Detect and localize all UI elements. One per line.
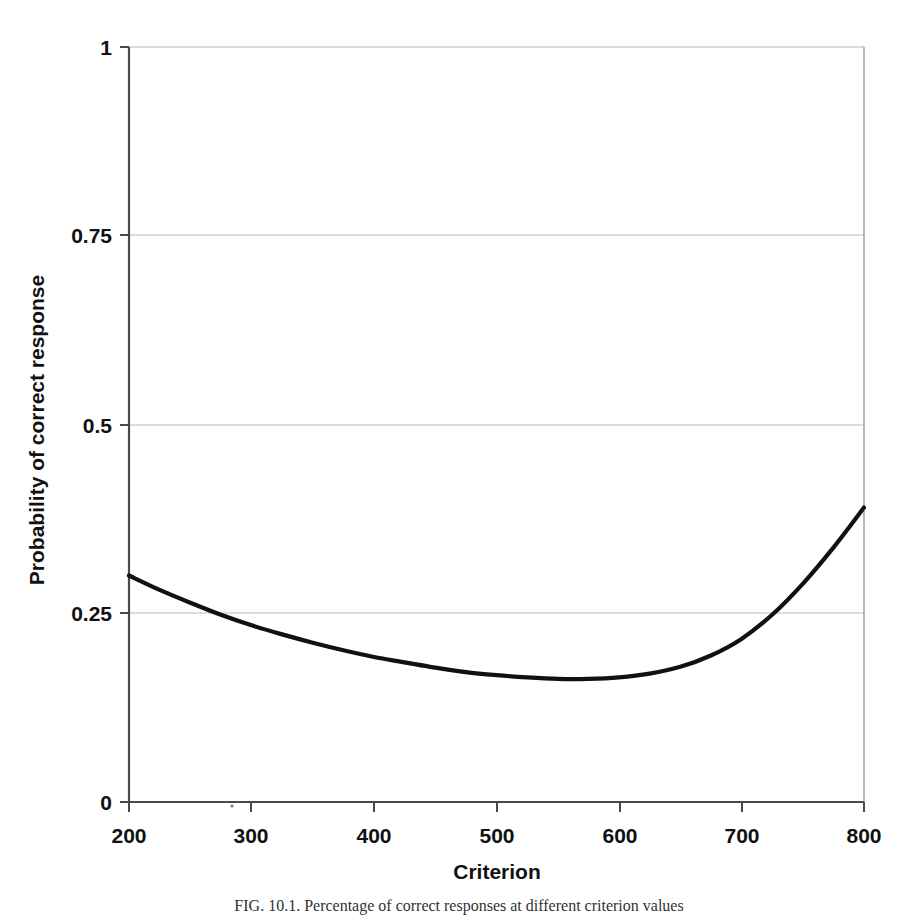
x-tick-label-600: 600 [602, 824, 637, 847]
y-tick-label-1: 1 [100, 36, 112, 59]
y-tick-label-0-5: 0.5 [83, 414, 113, 437]
x-tick-label-300: 300 [233, 824, 268, 847]
x-tick-label-700: 700 [724, 824, 759, 847]
figure-container: 0 0.25 0.5 0.75 1 200 300 400 500 600 70… [0, 0, 918, 916]
x-tick-label-400: 400 [356, 824, 391, 847]
probability-criterion-chart: 0 0.25 0.5 0.75 1 200 300 400 500 600 70… [0, 0, 918, 916]
scan-speck [230, 804, 233, 807]
chart-background [0, 0, 918, 916]
x-axis-title: Criterion [453, 860, 541, 883]
y-tick-label-0-25: 0.25 [71, 602, 112, 625]
x-tick-label-800: 800 [846, 824, 881, 847]
x-tick-label-500: 500 [479, 824, 514, 847]
y-tick-label-0: 0 [100, 791, 112, 814]
x-tick-label-200: 200 [111, 824, 146, 847]
y-axis-title: Probability of correct response [25, 275, 48, 585]
y-tick-label-0-75: 0.75 [71, 224, 112, 247]
figure-caption: FIG. 10.1. Percentage of correct respons… [234, 897, 683, 915]
